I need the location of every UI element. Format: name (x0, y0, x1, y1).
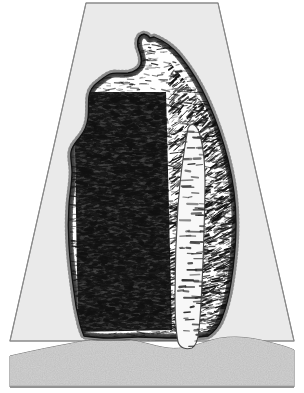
cross-section-illustration (0, 0, 304, 393)
figure-container: Cross-section of a conical tooth / stala… (0, 0, 304, 393)
